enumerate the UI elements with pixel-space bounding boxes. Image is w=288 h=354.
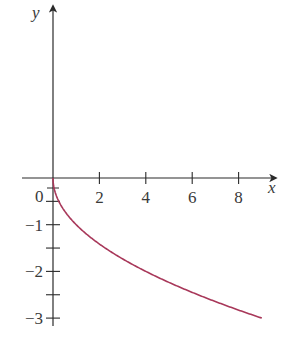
y-tick-label: −3 — [25, 309, 43, 328]
x-axis-label: x — [267, 178, 276, 197]
x-tick-label: 8 — [234, 188, 243, 207]
function-curve — [53, 178, 262, 318]
y-tick-label: −2 — [25, 262, 43, 281]
y-axis-label: y — [30, 3, 40, 22]
x-tick-label: 4 — [142, 188, 151, 207]
x-tick-label: 6 — [188, 188, 197, 207]
x-tick-label: 2 — [95, 188, 104, 207]
y-tick-label: −1 — [25, 216, 43, 235]
axes — [22, 6, 276, 326]
function-chart: 2468−1−2−3 x y 0 — [0, 0, 288, 354]
origin-label: 0 — [35, 187, 44, 206]
tick-labels: 2468−1−2−3 — [25, 188, 243, 328]
